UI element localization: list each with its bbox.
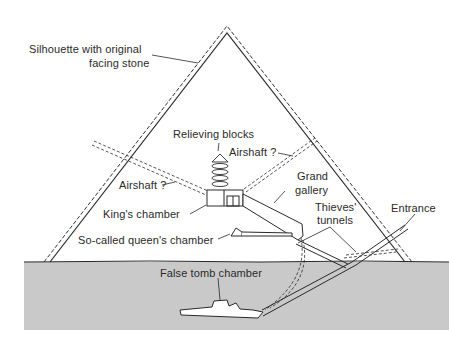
queens-chamber-leader	[218, 234, 230, 239]
label-grand-1: Grand	[297, 170, 328, 182]
label-entrance: Entrance	[391, 202, 436, 214]
silhouette-leader	[152, 55, 198, 63]
relieving-leader	[218, 143, 219, 151]
kings-chamber-leader	[190, 205, 206, 214]
kings-chamber	[207, 190, 243, 206]
label-silhouette-2: facing stone	[89, 57, 150, 69]
label-kings-chamber: King's chamber	[103, 208, 180, 220]
airshaft-right-leader	[278, 153, 293, 156]
entrance-leader	[400, 214, 415, 231]
label-false-tomb: False tomb chamber	[160, 267, 262, 279]
label-queens-chamber: So-called queen's chamber	[78, 234, 213, 246]
label-airshaft-left: Airshaft ?	[119, 179, 166, 191]
relieving-blocks	[212, 154, 228, 187]
ground-line	[24, 261, 449, 262]
thieves-leader	[298, 227, 356, 252]
grand-gallery-leader	[274, 191, 285, 203]
label-thieves-2: tunnels	[317, 214, 353, 226]
label-silhouette-1: Silhouette with original	[29, 43, 141, 55]
label-relieving-blocks: Relieving blocks	[173, 128, 254, 140]
label-thieves-1: Thieves'	[315, 201, 356, 213]
label-airshaft-right: Airshaft ?	[229, 146, 276, 158]
label-grand-2: gallery	[295, 184, 328, 196]
